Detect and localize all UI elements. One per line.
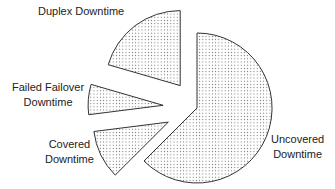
- pie-slice-duplex-downtime: [108, 11, 180, 86]
- label-failed-failover-downtime: Failed Failover Downtime: [12, 80, 84, 110]
- label-uncovered-downtime: Uncovered Downtime: [271, 132, 324, 162]
- label-text: Downtime: [12, 95, 84, 110]
- label-text: Covered: [45, 137, 94, 152]
- label-text: Uncovered: [271, 132, 324, 147]
- label-text: Duplex Downtime: [38, 4, 124, 19]
- pie-slices: [88, 11, 272, 183]
- label-text: Downtime: [45, 152, 94, 167]
- label-text: Failed Failover: [12, 80, 84, 95]
- label-duplex-downtime: Duplex Downtime: [38, 4, 124, 19]
- label-covered-downtime: Covered Downtime: [45, 137, 94, 167]
- pie-slice-failed-failover-downtime: [88, 84, 163, 114]
- label-text: Downtime: [271, 147, 324, 162]
